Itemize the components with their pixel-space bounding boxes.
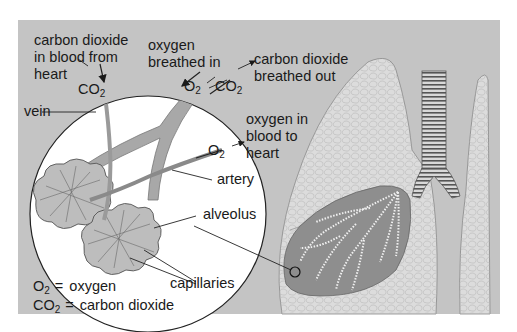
legend-row-co2: CO2=carbon dioxide [33,297,174,315]
label-o2-to-heart-2: blood to [246,128,298,144]
label-co2-from-heart-1: carbon dioxide [34,32,128,48]
label-capillaries: capillaries [170,275,234,291]
label-co2-breathed-out-1: carbon dioxide [254,51,348,67]
label-o2-to-heart-3: heart [246,145,279,161]
label-alveolus: alveolus [203,206,256,222]
trachea [422,71,446,171]
label-o2-to-heart-1: oxygen in [246,111,308,127]
label-artery: artery [217,171,255,187]
label-co2-from-heart-3: heart [34,66,67,82]
label-vein: vein [24,103,51,119]
label-co2-breathed-out-2: breathed out [254,68,335,84]
gas-exchange-diagram: carbon dioxide in blood from heart CO2 o… [0,0,517,332]
label-o2-breathed-in-2: breathed in [148,54,221,70]
label-o2-breathed-in-1: oxygen [148,37,195,53]
label-co2-from-heart-2: in blood from [34,49,118,65]
